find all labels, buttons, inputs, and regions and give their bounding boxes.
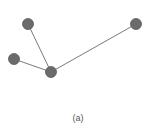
graph-edge (51, 24, 136, 72)
figure-caption: (a) (0, 113, 156, 123)
graph-node (9, 54, 20, 65)
graph-node (46, 67, 57, 78)
nodes-layer (9, 19, 142, 78)
graph-node (23, 19, 34, 30)
graph-node (131, 19, 142, 30)
edges-layer (14, 24, 136, 72)
